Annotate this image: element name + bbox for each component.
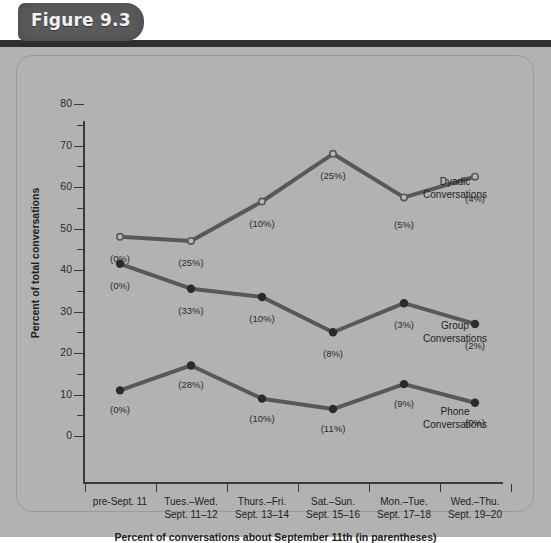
- x-axis-title: Percent of conversations about September…: [0, 531, 551, 543]
- data-point-marker: [187, 284, 195, 292]
- series-label-line: Group: [407, 319, 503, 332]
- series-label-line: Phone: [407, 405, 503, 418]
- point-annotation: (25%): [161, 257, 221, 268]
- point-annotation: (28%): [161, 379, 221, 390]
- series-label: DyadicConversations: [407, 175, 503, 201]
- header-rule: [0, 40, 551, 47]
- point-annotation: (8%): [303, 348, 363, 359]
- point-annotation: (33%): [161, 305, 221, 316]
- figure-number-label: Figure 9.3: [31, 10, 131, 30]
- point-annotation: (0%): [90, 404, 150, 415]
- series-label-line: Conversations: [407, 418, 503, 431]
- point-annotation: (25%): [303, 170, 363, 181]
- data-point-marker: [258, 293, 266, 301]
- point-annotation: (11%): [303, 423, 363, 434]
- data-point-marker: [400, 299, 408, 307]
- data-point-marker: [259, 198, 265, 204]
- plot-series-layer: [0, 47, 551, 537]
- figure-plate: Percent of total conversations 010203040…: [0, 47, 551, 537]
- series-label: GroupConversations: [407, 319, 503, 345]
- data-point-marker: [258, 394, 266, 402]
- data-point-marker: [117, 234, 123, 240]
- series-label: PhoneConversations: [407, 405, 503, 431]
- data-point-marker: [187, 361, 195, 369]
- point-annotation: (5%): [374, 219, 434, 230]
- point-annotation: (10%): [232, 218, 292, 229]
- data-point-marker: [400, 380, 408, 388]
- data-point-marker: [329, 405, 337, 413]
- series-label-line: Conversations: [407, 332, 503, 345]
- data-point-marker: [329, 328, 337, 336]
- data-point-marker: [188, 238, 194, 244]
- figure-number-badge: Figure 9.3: [18, 3, 144, 41]
- point-annotation: (0%): [90, 280, 150, 291]
- point-annotation: (10%): [232, 313, 292, 324]
- data-point-marker: [116, 386, 124, 394]
- series-label-line: Dyadic: [407, 175, 503, 188]
- point-annotation: (10%): [232, 413, 292, 424]
- point-annotation: (0%): [90, 253, 150, 264]
- data-point-marker: [330, 151, 336, 157]
- series-label-line: Conversations: [407, 188, 503, 201]
